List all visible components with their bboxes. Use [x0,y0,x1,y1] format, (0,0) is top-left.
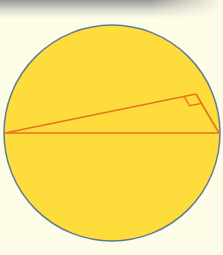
circle-triangle-diagram [0,0,223,255]
